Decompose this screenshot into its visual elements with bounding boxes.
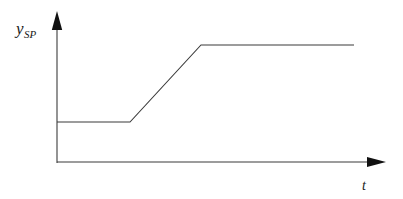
setpoint-ramp-figure: ySP t (0, 0, 403, 199)
y-axis-label-base: y (14, 19, 24, 38)
y-axis-up-arrow-icon (52, 11, 62, 30)
setpoint-signal-curve (57, 45, 354, 122)
x-axis-label: t (362, 178, 367, 193)
chart-canvas: ySP t (0, 0, 403, 199)
y-axis-label-subscript: SP (24, 28, 37, 40)
y-axis-label: ySP (14, 19, 37, 40)
x-axis-right-arrow-icon (367, 157, 386, 167)
